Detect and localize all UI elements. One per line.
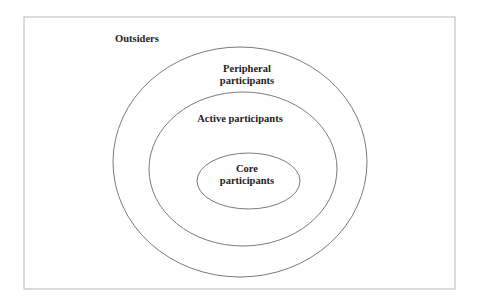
- active-label: Active participants: [197, 113, 282, 124]
- participation-diagram: Outsiders Peripheral participants Active…: [0, 0, 479, 301]
- peripheral-label-line2: participants: [220, 75, 274, 86]
- core-label-line1: Core: [236, 163, 258, 174]
- core-label-line2: participants: [220, 175, 274, 186]
- outsiders-label: Outsiders: [115, 33, 159, 44]
- peripheral-label-line1: Peripheral: [223, 63, 271, 74]
